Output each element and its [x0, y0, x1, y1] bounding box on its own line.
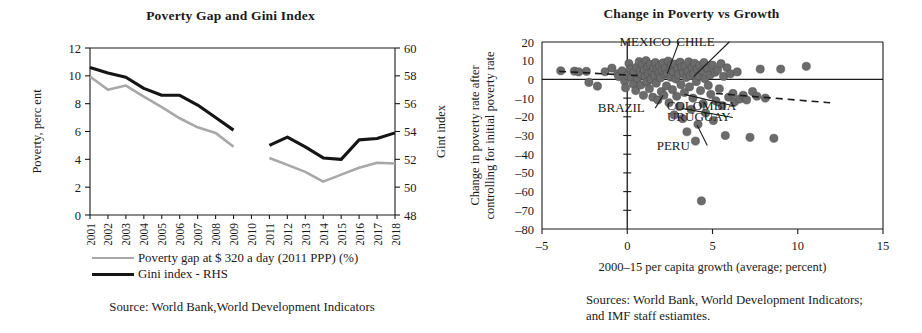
- left-source-line-1: Source: World Bank,World Development Ind…: [32, 300, 452, 316]
- scatter-point: [704, 81, 712, 89]
- scatter-point: [645, 85, 653, 93]
- scatter-point: [777, 65, 785, 73]
- x-axis-tick-label: 2015: [336, 223, 348, 245]
- x-axis-tick-label: 2006: [174, 223, 186, 245]
- x-axis-tick-label: 2016: [354, 223, 366, 245]
- y-axis-tick-label: –40: [514, 148, 534, 162]
- y-axis-tick-label: –80: [514, 223, 534, 237]
- figure-container: Poverty Gap and Gini Index 0246810124850…: [0, 0, 922, 333]
- scatter-point: [756, 65, 764, 73]
- x-axis-tick-label: 2010: [246, 223, 258, 245]
- right-source-note: Sources: World Bank, World Development I…: [586, 293, 916, 324]
- scatter-point: [729, 89, 737, 97]
- y-axis-tick-label: 10: [522, 54, 535, 68]
- panel-poverty-gap-gini: Poverty Gap and Gini Index 0246810124850…: [0, 0, 461, 333]
- scatter-point: [770, 134, 778, 142]
- left-axis-tick-label: 2: [75, 181, 81, 195]
- y-axis-tick-label: 0: [528, 73, 534, 87]
- left-axis-tick-label: 10: [69, 69, 82, 83]
- left-source-note: Source: World Bank,World Development Ind…: [32, 300, 452, 316]
- scatter-point: [696, 87, 704, 95]
- annotation-label-peru: PERU: [657, 138, 691, 153]
- right-source-line-2: and IMF staff estiamtes.: [586, 309, 916, 325]
- left-axis-tick-label: 6: [75, 125, 81, 139]
- annotation-label-mexico: MEXICO: [620, 34, 671, 49]
- x-axis-tick-label: 5: [709, 239, 715, 253]
- annotation-label-chile: CHILE: [676, 34, 714, 49]
- left-axis-tick-label: 0: [75, 209, 81, 223]
- legend-label-poverty-gap: Poverty gap at $ 320 a day (2011 PPP) (%…: [138, 250, 358, 266]
- scatter-point: [743, 96, 751, 104]
- scatter-point: [697, 197, 705, 205]
- legend-label-gini-index: Gini index - RHS: [138, 266, 228, 282]
- left-chart-svg: 0246810124850525456586020012002200320042…: [0, 0, 461, 245]
- right-axis-tick-label: 48: [404, 209, 417, 223]
- right-chart-svg: 20100–10–20–30–40–50–60–70–80–5051015MEX…: [461, 0, 922, 280]
- x-axis-tick-label: 0: [624, 239, 630, 253]
- x-axis-tick-label: 2005: [156, 223, 168, 245]
- legend-item-gini-index: Gini index - RHS: [92, 266, 358, 282]
- x-axis-tick-label: 2002: [102, 223, 114, 245]
- y-axis-title-line1: Change in poverty rate after: [468, 65, 482, 206]
- scatter-point: [721, 131, 729, 139]
- right-axis-tick-label: 60: [404, 42, 417, 56]
- right-axis-tick-label: 58: [404, 69, 417, 83]
- annotation-label-brazil: BRAZIL: [598, 100, 645, 115]
- scatter-point: [621, 84, 629, 92]
- legend-swatch-poverty-gap: [92, 257, 134, 259]
- scatter-point: [639, 91, 647, 99]
- series-line-gini-index: [90, 67, 234, 130]
- panel-change-poverty-vs-growth: Change in Poverty vs Growth 20100–10–20–…: [461, 0, 922, 333]
- x-axis-tick-label: 2017: [372, 223, 384, 245]
- scatter-point: [585, 78, 593, 86]
- y-axis-tick-label: –70: [514, 204, 534, 218]
- legend-item-poverty-gap: Poverty gap at $ 320 a day (2011 PPP) (%…: [92, 250, 358, 266]
- y-axis-tick-label: –30: [514, 129, 534, 143]
- x-axis-tick-label: 2012: [282, 223, 294, 245]
- right-chart-title: Change in Poverty vs Growth: [461, 6, 922, 22]
- x-axis-tick-label: 2014: [318, 223, 330, 245]
- x-axis-tick-label: 15: [877, 239, 890, 253]
- left-axis-title: Poverty, perc ent: [30, 89, 44, 174]
- series-line-poverty-gap: [90, 77, 234, 147]
- scatter-point: [733, 68, 741, 76]
- x-axis-tick-label: 2008: [210, 223, 222, 245]
- x-axis-tick-label: 2018: [390, 223, 402, 245]
- left-axis-tick-label: 12: [69, 42, 82, 56]
- scatter-point: [593, 82, 601, 90]
- x-axis-tick-label: 2009: [228, 223, 240, 245]
- left-chart-legend: Poverty gap at $ 320 a day (2011 PPP) (%…: [92, 250, 358, 282]
- x-axis-tick-label: 2013: [300, 223, 312, 245]
- scatter-point: [685, 83, 693, 91]
- scatter-point: [691, 137, 699, 145]
- x-axis-tick-label: 2007: [192, 223, 204, 245]
- x-axis-title: 2000–15 per capita growth (average; perc…: [598, 260, 826, 274]
- scatter-point: [802, 62, 810, 70]
- scatter-point: [715, 85, 723, 93]
- annotation-label-uruguay: URUGUAY: [667, 109, 731, 124]
- y-axis-tick-label: –20: [514, 110, 534, 124]
- right-source-line-1: Sources: World Bank, World Development I…: [586, 293, 916, 309]
- left-chart-title: Poverty Gap and Gini Index: [0, 8, 461, 24]
- x-axis-tick-label: 2011: [264, 223, 276, 245]
- scatter-point: [746, 133, 754, 141]
- series-line-poverty-gap: [269, 158, 395, 182]
- y-axis-tick-label: –10: [514, 92, 534, 106]
- y-axis-title-line2: controlling for initial poverty rate: [483, 51, 497, 219]
- left-axis-tick-label: 8: [75, 97, 81, 111]
- right-axis-title: Gint index: [434, 104, 448, 158]
- legend-swatch-gini-index: [92, 273, 134, 276]
- scatter-point: [677, 81, 685, 89]
- left-axis-tick-label: 4: [75, 153, 82, 167]
- right-axis-tick-label: 56: [404, 97, 417, 111]
- x-axis-tick-label: 2004: [138, 223, 150, 245]
- right-axis-tick-label: 52: [404, 153, 417, 167]
- x-axis-tick-label: –5: [535, 239, 549, 253]
- y-axis-tick-label: –50: [514, 166, 534, 180]
- scatter-point: [582, 67, 590, 75]
- y-axis-tick-label: 20: [522, 36, 535, 50]
- x-axis-tick-label: 10: [792, 239, 805, 253]
- y-axis-tick-label: –60: [514, 185, 534, 199]
- x-axis-tick-label: 2003: [120, 223, 132, 245]
- series-line-gini-index: [269, 133, 395, 159]
